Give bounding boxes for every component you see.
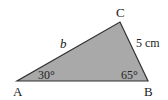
- side-label-b: b: [60, 36, 67, 51]
- side-label-bc: 5 cm: [136, 36, 160, 50]
- vertex-label-b: B: [144, 84, 153, 99]
- angle-label-a: 30°: [38, 68, 55, 82]
- vertex-label-a: A: [13, 84, 23, 99]
- vertex-label-c: C: [116, 5, 125, 20]
- angle-label-b: 65°: [121, 68, 138, 82]
- triangle-diagram: A B C 30° 65° b 5 cm: [0, 0, 168, 100]
